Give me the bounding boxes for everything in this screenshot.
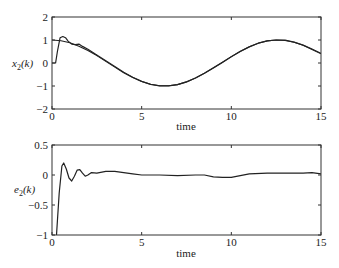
e2-ylabel: e2(k) — [14, 183, 35, 198]
x-tick-label: 15 — [316, 236, 328, 248]
y-tick-label: 0 — [43, 169, 49, 181]
e2-plot: 051015−1−0.500.5 — [28, 139, 327, 248]
y-tick-label: 1 — [43, 34, 49, 46]
chart-figure: 051015−2−1012 time x2(k) 051015−1−0.500.… — [0, 0, 339, 268]
y-tick-label: 0 — [43, 57, 49, 69]
x2-ylabel: x2(k) — [11, 57, 33, 72]
y-tick-label: 2 — [43, 11, 49, 23]
x2-xlabel: time — [176, 120, 196, 132]
series-actual — [52, 37, 321, 86]
x-tick-label: 15 — [316, 110, 328, 122]
series-reference — [52, 40, 321, 86]
y-tick-label: 0.5 — [34, 139, 48, 151]
y-tick-label: −0.5 — [28, 199, 48, 211]
x-tick-label: 5 — [139, 236, 145, 248]
y-tick-label: −2 — [36, 103, 48, 115]
y-tick-label: −1 — [36, 229, 48, 241]
x2-plot: 051015−2−1012 — [36, 11, 327, 122]
e2-xlabel: time — [176, 247, 196, 259]
x-tick-label: 10 — [226, 110, 238, 122]
x-tick-label: 0 — [49, 110, 55, 122]
x-tick-label: 0 — [49, 236, 55, 248]
plot-frame — [52, 145, 321, 235]
plot-frame — [52, 17, 321, 109]
x-tick-label: 10 — [226, 236, 238, 248]
series-error — [57, 163, 322, 235]
y-tick-label: −1 — [36, 80, 48, 92]
x-tick-label: 5 — [139, 110, 145, 122]
